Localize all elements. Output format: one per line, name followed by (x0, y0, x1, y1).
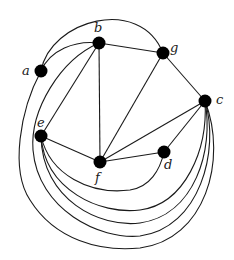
edge-b-c (33, 43, 210, 236)
node-g (157, 47, 170, 60)
node-c (199, 95, 212, 108)
node-label-g: g (170, 40, 178, 55)
edge-g-c (163, 53, 205, 101)
node-e (35, 130, 48, 143)
node-a (35, 65, 48, 78)
node-label-d: d (164, 157, 172, 172)
edges-layer (19, 20, 214, 249)
node-label-f: f (94, 170, 102, 185)
node-label-a: a (22, 63, 30, 78)
edge-b-g (99, 43, 163, 53)
edge-e-c-1 (41, 101, 205, 211)
edge-g-f (100, 53, 163, 162)
node-f (94, 156, 107, 169)
edge-d-c (164, 101, 205, 152)
node-label-c: c (216, 92, 224, 107)
node-label-e: e (37, 115, 45, 130)
graph-diagram: abgcefd (0, 0, 234, 260)
node-b (93, 37, 106, 50)
edge-f-c (100, 101, 205, 162)
node-label-b: b (94, 20, 102, 35)
edge-b-f (99, 43, 100, 162)
